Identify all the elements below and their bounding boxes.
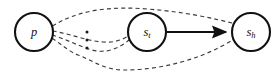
node-p[interactable]: p bbox=[15, 13, 53, 51]
graph-svg: p st sh bbox=[0, 0, 278, 77]
dashed-edge-p-to-st-lower bbox=[52, 35, 129, 51]
node-st[interactable]: st bbox=[128, 13, 166, 51]
vertical-ellipsis-icon bbox=[86, 31, 89, 50]
node-p-label: p bbox=[30, 25, 37, 39]
diagram-canvas: p st sh bbox=[0, 0, 278, 77]
dashed-edge-p-to-st-upper bbox=[53, 31, 131, 42]
node-sh[interactable]: sh bbox=[232, 13, 270, 51]
